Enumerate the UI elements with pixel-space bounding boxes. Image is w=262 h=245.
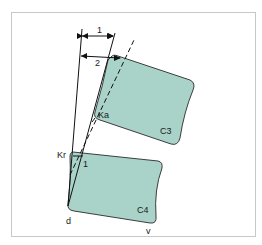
spine-diagram: 1 2 Ka Kr 1 C3 C4 d v	[0, 0, 262, 245]
label-ka: Ka	[98, 110, 109, 120]
label-c4: C4	[137, 205, 149, 215]
label-arrow-1: 1	[97, 25, 102, 35]
label-c3: C3	[160, 126, 172, 136]
label-kr: Kr	[57, 150, 66, 160]
label-d: d	[66, 216, 71, 226]
ka-tick	[92, 118, 95, 122]
label-v: v	[146, 226, 151, 236]
label-angle-1: 1	[83, 159, 88, 169]
label-arrow-2: 2	[95, 58, 100, 68]
vertebra-c3	[95, 55, 194, 144]
